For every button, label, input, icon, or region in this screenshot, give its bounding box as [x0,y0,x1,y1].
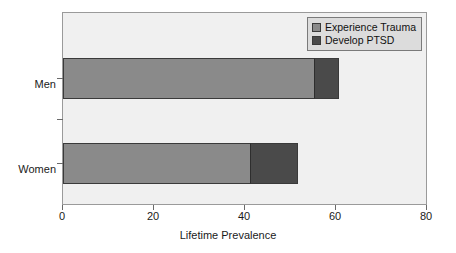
x-axis-label-60: 60 [315,210,355,223]
legend-item-experience-trauma: Experience Trauma [312,21,416,34]
bar-row-women [63,143,298,184]
y-axis-tick-middle [57,119,63,120]
legend-label-experience-trauma: Experience Trauma [325,21,416,34]
bar-segment-men-experience-trauma [63,58,314,99]
x-axis-labels: 0 20 40 60 80 [0,210,456,224]
bar-segment-men-develop-ptsd [314,58,339,99]
bar-segment-women-develop-ptsd [250,143,298,184]
x-axis-label-20: 20 [133,210,173,223]
y-axis-label-women: Women [0,163,56,175]
x-axis-label-0: 0 [42,210,82,223]
legend: Experience Trauma Develop PTSD [307,17,422,51]
y-axis-label-men: Men [0,78,56,90]
x-axis-label-80: 80 [406,210,446,223]
legend-item-develop-ptsd: Develop PTSD [312,34,416,47]
x-axis-title: Lifetime Prevalence [0,229,456,242]
stacked-bar-chart: Men Women Experience Trauma Develop PTSD [0,0,456,253]
legend-swatch-experience-trauma [312,23,321,32]
plot-area: Experience Trauma Develop PTSD [62,12,427,205]
bar-row-men [63,58,339,99]
legend-label-develop-ptsd: Develop PTSD [325,34,394,47]
legend-swatch-develop-ptsd [312,36,321,45]
bar-segment-women-experience-trauma [63,143,250,184]
x-axis-label-40: 40 [224,210,264,223]
